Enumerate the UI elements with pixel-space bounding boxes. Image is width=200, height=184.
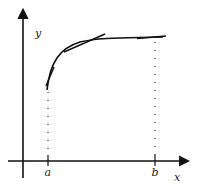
b-label: b <box>152 166 159 179</box>
tangent-line-middle <box>64 34 105 52</box>
a-label: a <box>45 166 52 179</box>
function-curve <box>47 37 163 90</box>
tangent-line-left <box>46 67 54 86</box>
x-axis-label: x <box>174 171 181 184</box>
y-axis-label: y <box>34 27 42 40</box>
function-graph-diagram: y x a b <box>0 0 200 184</box>
